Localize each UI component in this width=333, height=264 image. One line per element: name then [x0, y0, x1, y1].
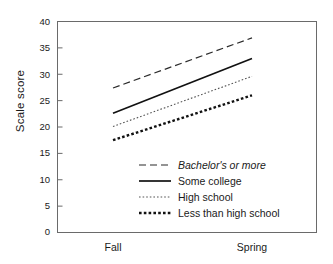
legend-item-high-school: High school [138, 189, 313, 205]
legend-label-less-than-high-school: Less than high school [172, 207, 280, 219]
legend-swatch-some-college [138, 175, 172, 187]
legend-label-some-college: Some college [172, 175, 242, 187]
legend-swatch-bachelors [138, 159, 172, 171]
legend-swatch-high-school [138, 191, 172, 203]
legend-swatch-less-than-high-school [138, 207, 172, 219]
legend-label-bachelors: Bachelor's or more [172, 159, 266, 171]
legend-item-some-college: Some college [138, 173, 313, 189]
series-lines-group [113, 38, 252, 140]
legend-item-bachelors: Bachelor's or more [138, 157, 313, 173]
series-line-bachelor-s-or-more [113, 38, 252, 88]
chart-drawing-layer [0, 0, 333, 264]
series-line-some-college [113, 58, 252, 113]
legend-label-high-school: High school [172, 191, 233, 203]
chart-figure: Scale score 40 35 30 25 20 15 10 5 0 Fal… [0, 0, 333, 264]
legend-item-less-than-high-school: Less than high school [138, 205, 313, 221]
chart-legend: Bachelor's or more Some college High sch… [138, 157, 313, 221]
series-line-less-than-high-school [113, 95, 252, 140]
y-axis-tick-marks [58, 48, 63, 206]
